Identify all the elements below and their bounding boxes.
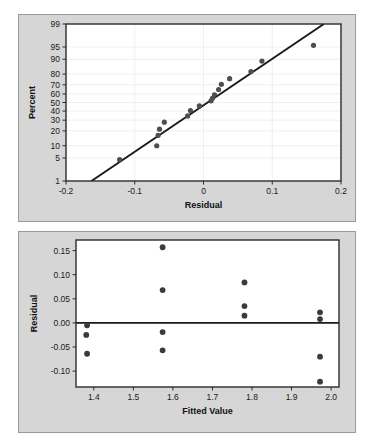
data-point [160,329,166,335]
x-tick-label: 2.0 [325,392,337,402]
data-point [154,143,159,148]
x-tick-label: 1.4 [88,392,100,402]
data-point [188,108,193,113]
data-point [162,120,167,125]
data-point [242,303,248,309]
x-tick-label: 1.9 [286,392,298,402]
data-point [156,133,161,138]
data-point [242,313,248,319]
data-point [317,354,323,360]
residuals-versus-fits-plot-panel: 1.41.51.61.71.81.92.00.150.100.050.00-0.… [18,231,356,433]
data-point [157,127,162,132]
y-axis-title: Percent [27,86,37,119]
y-tick-label: 0.10 [53,270,70,280]
data-point [212,92,217,97]
x-tick-label: 1.8 [246,392,258,402]
x-axis-title: Residual [185,200,223,210]
x-tick-label: 0 [201,186,206,196]
data-point [160,347,166,353]
y-tick-label: 20 [51,126,61,136]
y-tick-label: 99 [51,19,61,29]
residual-plot-group: 1.41.51.61.71.81.92.00.150.100.050.00-0.… [29,240,339,416]
x-axis-title: Fitted Value [182,406,233,416]
data-point [317,316,323,322]
y-tick-label: -0.10 [51,366,71,376]
data-point [311,43,316,48]
data-point [84,322,90,328]
y-tick-label: -0.05 [51,342,71,352]
data-point [219,82,224,87]
data-point [185,113,190,118]
data-point [197,103,202,108]
x-tick-label: 0.1 [266,186,278,196]
y-tick-label: 0.00 [53,318,70,328]
data-point [216,87,221,92]
normal-probability-plot-panel: -0.2-0.100.10.2999590807060504030201051R… [18,14,356,222]
x-tick-label: 0.2 [335,186,347,196]
residuals-versus-fits-plot-svg: 1.41.51.61.71.81.92.00.150.100.050.00-0.… [19,232,355,432]
data-point [84,351,90,357]
x-tick-label: 1.5 [127,392,139,402]
y-axis-title: Residual [29,295,39,333]
y-tick-label: 30 [51,115,61,125]
x-tick-label: -0.1 [127,186,142,196]
y-tick-label: 95 [51,42,61,52]
data-point [317,379,323,385]
normal-plot-group: -0.2-0.100.10.2999590807060504030201051R… [27,19,347,210]
y-tick-label: 5 [55,153,60,163]
data-point [160,287,166,293]
y-tick-label: 0.05 [53,294,70,304]
y-tick-label: 1 [55,176,60,186]
y-tick-label: 0.15 [53,246,70,256]
data-point [317,309,323,315]
x-tick-label: 1.6 [167,392,179,402]
x-tick-label: 1.7 [207,392,219,402]
x-tick-label: -0.2 [59,186,74,196]
y-tick-label: 90 [51,54,61,64]
data-point [242,280,248,286]
data-point [160,244,166,250]
y-tick-label: 80 [51,69,61,79]
normal-probability-plot-svg: -0.2-0.100.10.2999590807060504030201051R… [19,15,355,221]
data-point [259,59,264,64]
plot-background [76,240,339,387]
data-point [83,332,89,338]
y-tick-label: 10 [51,141,61,151]
data-point [248,69,253,74]
data-point [227,76,232,81]
data-point [117,157,122,162]
